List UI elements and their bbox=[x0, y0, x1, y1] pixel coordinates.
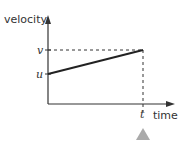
x-axis-label: time bbox=[153, 109, 178, 122]
triangle-marker-icon bbox=[136, 128, 150, 140]
v-label: v bbox=[37, 44, 44, 57]
u-label: u bbox=[36, 68, 43, 81]
t-label: t bbox=[140, 108, 145, 121]
velocity-line bbox=[48, 50, 143, 74]
y-axis-label: velocity bbox=[4, 13, 47, 26]
velocity-time-graph: velocity v u t time bbox=[0, 0, 183, 145]
x-axis-arrow-icon bbox=[166, 101, 175, 107]
